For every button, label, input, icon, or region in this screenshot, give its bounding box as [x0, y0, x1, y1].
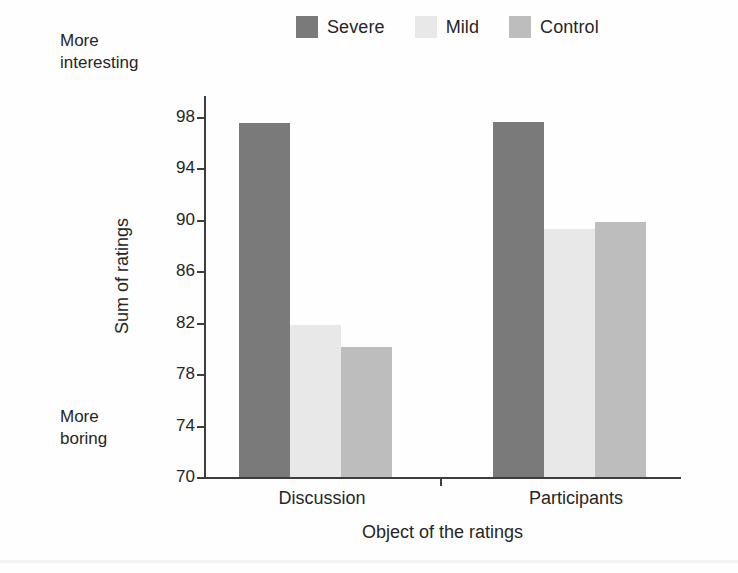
y-axis-line [204, 96, 206, 477]
y-tick-mark [197, 168, 204, 170]
bar-participants-mild [544, 229, 595, 477]
annotation-more-boring: More boring [60, 406, 107, 450]
y-tick-mark [197, 477, 204, 479]
y-tick-mark [197, 426, 204, 428]
bar-discussion-severe [239, 123, 290, 477]
y-tick-mark [197, 117, 204, 119]
bar-participants-control [595, 222, 646, 477]
legend-item-control: Control [509, 16, 599, 38]
legend-swatch-severe [296, 16, 318, 38]
plot-area: 7074788286909498 Discussion Participants [204, 96, 681, 477]
y-tick-label: 78 [176, 364, 195, 384]
y-tick-mark [197, 323, 204, 325]
legend-swatch-control [509, 16, 531, 38]
y-tick-mark [197, 220, 204, 222]
y-tick-label: 70 [176, 467, 195, 487]
legend-swatch-mild [415, 16, 437, 38]
y-tick-label: 98 [176, 107, 195, 127]
y-tick-label: 74 [176, 416, 195, 436]
chart-legend: Severe Mild Control [296, 16, 599, 38]
y-tick-label: 86 [176, 261, 195, 281]
y-tick-label: 90 [176, 210, 195, 230]
scan-artifact-line [0, 560, 738, 563]
legend-item-mild: Mild [415, 16, 479, 38]
x-axis-line [204, 477, 681, 479]
annotation-more-interesting: More interesting [60, 30, 138, 74]
bar-discussion-mild [290, 325, 341, 477]
bar-chart-figure: Severe Mild Control More interesting Mor… [0, 0, 738, 573]
y-tick-mark [197, 374, 204, 376]
x-axis-group-separator-tick [440, 477, 442, 486]
x-axis-title: Object of the ratings [204, 522, 681, 543]
y-axis-title: Sum of ratings [112, 176, 133, 376]
legend-item-severe: Severe [296, 16, 385, 38]
y-tick-mark [197, 271, 204, 273]
category-label-discussion: Discussion [278, 488, 365, 509]
y-tick-label: 94 [176, 158, 195, 178]
legend-label-mild: Mild [446, 17, 479, 38]
legend-label-control: Control [540, 17, 599, 38]
bar-participants-severe [493, 122, 544, 477]
category-label-participants: Participants [529, 488, 623, 509]
y-tick-label: 82 [176, 313, 195, 333]
bar-discussion-control [341, 347, 392, 477]
legend-label-severe: Severe [327, 17, 385, 38]
